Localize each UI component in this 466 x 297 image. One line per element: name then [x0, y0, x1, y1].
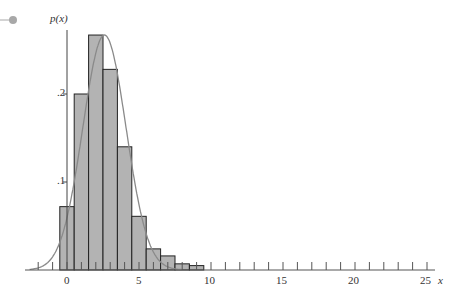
x-tick-label-25: 25 — [420, 274, 431, 286]
histogram-chart — [0, 0, 466, 297]
bullet-dot-icon — [9, 16, 17, 24]
histogram-bar — [89, 35, 103, 270]
y-axis-label: p(x) — [50, 12, 68, 24]
histogram-bar — [103, 69, 117, 270]
x-tick-label-5: 5 — [136, 274, 142, 286]
histogram-bar — [117, 147, 131, 270]
x-tick-label-15: 15 — [276, 274, 287, 286]
histogram-bar — [74, 94, 88, 270]
x-tick-label-20: 20 — [348, 274, 359, 286]
x-tick-label-0: 0 — [64, 274, 70, 286]
x-tick-label-10: 10 — [204, 274, 215, 286]
x-axis-label: x — [438, 274, 443, 286]
y-tick-label-1: .1 — [57, 174, 65, 186]
y-tick-label-2: .2 — [57, 86, 65, 98]
